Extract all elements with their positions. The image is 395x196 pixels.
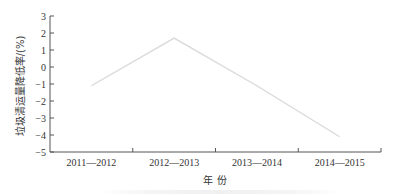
- y-tick-label: 3: [41, 11, 46, 22]
- y-tick-label: −5: [35, 147, 46, 158]
- x-category-label: 2013—2014: [232, 157, 282, 168]
- y-tick-label: −1: [35, 79, 46, 90]
- data-series: [91, 38, 339, 137]
- x-category-label: 2014—2015: [315, 157, 365, 168]
- x-category-label: 2012—2013: [149, 157, 199, 168]
- y-tick-label: 2: [41, 28, 46, 39]
- x-axis-title: 年 份: [203, 174, 226, 186]
- x-category-label: 2011—2012: [67, 157, 117, 168]
- x-axis: 2011—20122012—20132013—20142014—2015: [50, 148, 381, 168]
- y-axis: 3210−1−2−3−4−5: [35, 11, 54, 158]
- y-tick-label: −4: [35, 130, 46, 141]
- y-tick-label: −3: [35, 113, 46, 124]
- series-line: [91, 38, 339, 137]
- line-chart: 3210−1−2−3−4−5 2011—20122012—20132013—20…: [0, 0, 395, 196]
- y-axis-title: 垃圾清运量降低率/(%): [14, 36, 26, 137]
- y-tick-label: 1: [41, 45, 46, 56]
- y-tick-label: −2: [35, 96, 46, 107]
- figure-caption-cutoff: [100, 190, 340, 194]
- y-tick-label: 0: [41, 62, 46, 73]
